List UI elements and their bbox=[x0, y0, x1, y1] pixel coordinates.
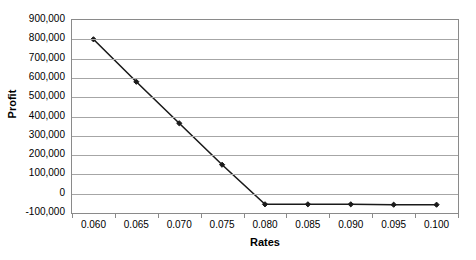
y-axis-tick-label: 200,000 bbox=[8, 149, 65, 159]
x-axis-tick-mark bbox=[158, 213, 159, 218]
gridline bbox=[72, 78, 458, 79]
x-axis-tick-mark bbox=[372, 213, 373, 218]
profit-vs-rates-line-chart: Profit 900,000800,000700,000600,000500,0… bbox=[0, 0, 476, 260]
y-axis-tick-label: 700,000 bbox=[8, 53, 65, 63]
x-axis-tick-mark bbox=[115, 213, 116, 218]
x-axis-tick-label: 0.075 bbox=[198, 219, 246, 231]
x-axis-tick-mark bbox=[415, 213, 416, 218]
y-axis-tick-label: 100,000 bbox=[8, 168, 65, 178]
gridline bbox=[72, 155, 458, 156]
y-axis-tick-label: 900,000 bbox=[8, 14, 65, 24]
y-axis-tick-label: 500,000 bbox=[8, 91, 65, 101]
x-axis-tick-mark bbox=[286, 213, 287, 218]
plot-area bbox=[71, 19, 459, 214]
y-axis-tick-label: 0 bbox=[8, 188, 65, 198]
x-axis-tick-label: 0.065 bbox=[112, 219, 160, 231]
gridline bbox=[72, 194, 458, 195]
x-axis-tick-labels: 0.0600.0650.0700.0750.0800.0850.0900.095… bbox=[71, 219, 459, 233]
y-axis-tick-label: 300,000 bbox=[8, 130, 65, 140]
x-axis-tick-label: 0.095 bbox=[370, 219, 418, 231]
data-point-marker bbox=[305, 202, 310, 207]
y-axis-tick-label: 800,000 bbox=[8, 33, 65, 43]
y-axis-tick-label: 600,000 bbox=[8, 72, 65, 82]
y-axis-tick-labels: 900,000800,000700,000600,000500,000400,0… bbox=[8, 12, 65, 212]
x-axis-tick-label: 0.090 bbox=[327, 219, 375, 231]
data-point-marker bbox=[434, 202, 439, 207]
gridline bbox=[72, 174, 458, 175]
x-axis-tick-label: 0.085 bbox=[284, 219, 332, 231]
x-axis-title: Rates bbox=[71, 236, 459, 248]
gridline bbox=[72, 97, 458, 98]
gridline bbox=[72, 136, 458, 137]
data-point-marker bbox=[391, 202, 396, 207]
gridline bbox=[72, 39, 458, 40]
y-axis-tick-label: -100,000 bbox=[8, 207, 65, 217]
x-axis-tick-mark bbox=[458, 213, 459, 218]
x-axis-tick-label: 0.070 bbox=[155, 219, 203, 231]
x-axis-tick-label: 0.060 bbox=[69, 219, 117, 231]
x-axis-tick-marks bbox=[71, 213, 459, 218]
data-point-marker bbox=[348, 202, 353, 207]
x-axis-tick-mark bbox=[244, 213, 245, 218]
x-axis-tick-mark bbox=[72, 213, 73, 218]
x-axis-tick-mark bbox=[201, 213, 202, 218]
x-axis-tick-label: 0.100 bbox=[413, 219, 461, 231]
series-polyline bbox=[93, 39, 436, 204]
gridline bbox=[72, 117, 458, 118]
gridline bbox=[72, 59, 458, 60]
y-axis-tick-label: 400,000 bbox=[8, 111, 65, 121]
x-axis-tick-label: 0.080 bbox=[241, 219, 289, 231]
x-axis-tick-mark bbox=[329, 213, 330, 218]
